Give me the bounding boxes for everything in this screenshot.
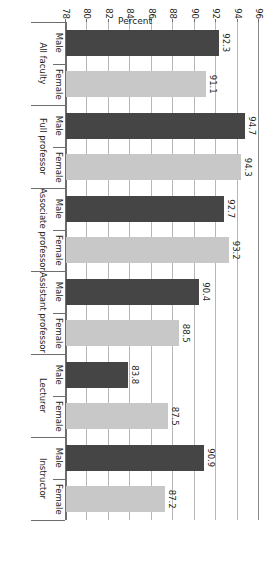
group-separator [31,437,65,438]
value-tick-label: 94 [233,8,242,19]
group-separator [31,105,65,106]
bar-value-label: 90.9 [206,448,215,467]
group-separator [31,271,65,272]
group-label: Instructor [39,458,48,499]
subcategory-separator [53,396,65,397]
bar-value-label: 92.3 [221,33,230,52]
subcategory-separator [53,479,65,480]
value-tick-label: 80 [83,8,92,19]
gridline [258,22,259,520]
group-label: Associate professor [39,188,48,271]
bar-chart: 9694929088868482807892.391.194.794.392.7… [0,0,271,586]
category-tick-label: Female [55,152,64,183]
group-label: All faculty [39,42,48,84]
bar-value-label: 94.3 [243,158,252,177]
bar-female [66,237,229,263]
bar-value-label: 87.5 [170,407,179,426]
bar-value-label: 94.7 [247,116,256,135]
category-tick-label: Male [55,448,64,468]
bar-female [66,486,165,512]
plot-area: 9694929088868482807892.391.194.794.392.7… [66,22,259,520]
gridline [237,22,238,520]
value-tick-mark [237,19,238,22]
bar-value-label: 90.4 [201,282,210,301]
subcategory-separator [53,64,65,65]
bar-value-label: 92.7 [226,199,235,218]
bar-female [66,154,241,180]
value-tick-mark [194,19,195,22]
value-tick-label: 96 [255,8,264,19]
bar-value-label: 88.5 [181,324,190,343]
value-tick-label: 92 [212,8,221,19]
rotated-page-wrapper: 9694929088868482807892.391.194.794.392.7… [0,0,271,586]
bar-value-label: 91.1 [208,75,217,94]
bar-male [66,113,245,139]
value-tick-mark [108,19,109,22]
bar-value-label: 93.2 [231,241,240,260]
category-tick-label: Male [55,116,64,136]
value-axis-title: Percent [119,16,153,26]
category-tick-label: Male [55,282,64,302]
value-tick-mark [172,19,173,22]
group-label: Lecturer [39,378,48,413]
group-separator [31,188,65,189]
group-label: Assistant professor [39,272,48,353]
value-axis-line [65,22,66,520]
bar-value-label: 83.8 [130,365,139,384]
group-label: Full professor [39,118,48,175]
value-tick-label: 78 [62,8,71,19]
bar-female [66,403,168,429]
bar-female [66,320,179,346]
bar-male [66,279,199,305]
bar-value-label: 87.2 [167,490,176,509]
value-tick-label: 82 [105,8,114,19]
value-tick-mark [86,19,87,22]
category-tick-label: Female [55,401,64,432]
group-separator [31,22,65,23]
subcategory-separator [53,313,65,314]
bar-male [66,362,128,388]
value-tick-label: 88 [169,8,178,19]
bar-male [66,196,224,222]
group-separator [31,520,65,521]
group-separator [31,354,65,355]
subcategory-separator [53,147,65,148]
category-tick-label: Female [55,69,64,100]
value-tick-mark [258,19,259,22]
bar-female [66,71,206,97]
category-tick-label: Female [55,318,64,349]
subcategory-separator [53,230,65,231]
value-tick-mark [215,19,216,22]
bar-male [66,30,219,56]
category-tick-label: Female [55,235,64,266]
gridline [215,22,216,520]
category-tick-label: Female [55,484,64,515]
category-tick-label: Male [55,199,64,219]
bar-male [66,445,204,471]
value-tick-label: 90 [190,8,199,19]
category-tick-label: Male [55,365,64,385]
category-tick-label: Male [55,33,64,53]
